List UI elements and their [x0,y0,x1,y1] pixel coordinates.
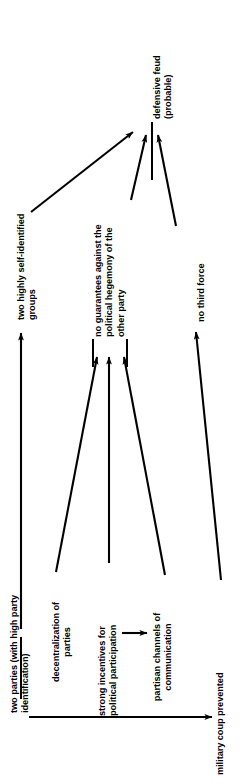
node-no-guarantees-underline-1 [92,339,94,367]
node-no-guarantees-line-1: no guarantees against the [93,224,104,337]
node-partisan-channels-line-1: partisan channels of [152,598,163,716]
node-strong-incentives-line-2: political participation [108,625,119,716]
node-partisan-channels-line-2: communication [163,598,174,716]
node-no-third-force-line-1: no third force [196,263,207,322]
node-strong-incentives-line-1: strong incentives for [97,625,108,716]
node-strong-incentives[interactable]: strong incentives for political particip… [97,625,120,716]
node-decentralization-line-2: parties [62,577,73,707]
arrow-layer [0,0,244,784]
node-no-third-force[interactable]: no third force [196,263,207,322]
node-partisan-channels[interactable]: partisan channels of communication [152,598,175,716]
node-two-highly-self-identified-groups[interactable]: two highly self-identified groups [16,214,39,320]
edge-decentralization-to-no-guarantees [56,357,97,572]
node-decentralization[interactable]: decentralization of parties [51,577,74,707]
node-groups-line-1: two highly self-identified [16,214,27,320]
node-no-guarantees-line-2: political hegemony of the [104,224,115,337]
node-two-parties-underline [20,637,22,699]
node-no-guarantees[interactable]: no guarantees against the political hege… [93,224,127,337]
edge-no-third-force-to-defensive-feud [158,135,176,226]
node-military-coup-line-1: military coup prevented [215,673,226,776]
node-two-parties-line-1: two parties (with high party [9,595,20,713]
node-defensive-feud-line-1: defensive feud [152,55,163,119]
node-defensive-feud-line-2: (probable) [163,55,174,119]
node-defensive-feud-underline [151,122,153,180]
edge-groups-to-defensive-feud [31,132,133,212]
node-defensive-feud[interactable]: defensive feud (probable) [152,55,175,119]
node-decentralization-line-1: decentralization of [51,577,62,707]
node-no-guarantees-line-3: other party [116,224,127,337]
node-groups-line-2: groups [27,214,38,320]
node-military-coup[interactable]: military coup prevented [215,673,226,776]
edge-no-guarantees-to-defensive-feud [131,135,146,200]
node-no-guarantees-underline-2 [126,339,128,367]
diagram-canvas: two parties (with high party identificat… [0,0,244,784]
edge-military-coup-to-no-third-force [196,332,221,580]
edge-partisan-channels-to-no-guarantees [124,357,165,575]
